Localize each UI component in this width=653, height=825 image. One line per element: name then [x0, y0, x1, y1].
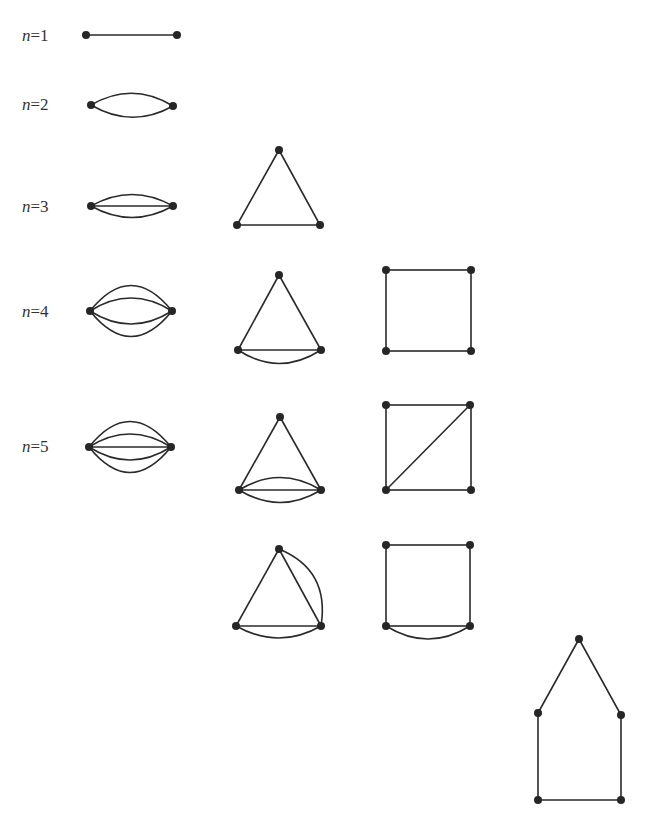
graph-n5-square-diagonal	[382, 401, 475, 494]
graph-n5-square-double-bottom	[382, 541, 474, 639]
row-label-n4: n=4	[22, 302, 49, 321]
graph-n5-triangle-triple-base	[235, 413, 325, 503]
row-label-n3: n=3	[22, 197, 49, 216]
row-label-n2: n=2	[22, 95, 49, 114]
graph-n4-triangle-double-base	[234, 271, 325, 364]
row-label-n1: n=1	[22, 26, 49, 45]
graph-n3-triangle	[233, 146, 324, 229]
graph-n4-quadruple-edge	[86, 286, 176, 337]
graph-n1-single-edge	[82, 31, 181, 39]
graph-n5-triangle-double-side-base	[232, 545, 325, 638]
graph-diagram: n=1 n=2 n=3 n=4 n=5	[0, 0, 653, 825]
graph-n5-pentagon-house	[534, 635, 625, 804]
graph-n3-triple-edge	[87, 195, 177, 218]
row-label-n5: n=5	[22, 437, 49, 456]
graph-n2-double-edge	[87, 93, 177, 117]
graph-n5-quintuple-edge	[85, 422, 175, 473]
graph-n4-square	[382, 266, 475, 355]
